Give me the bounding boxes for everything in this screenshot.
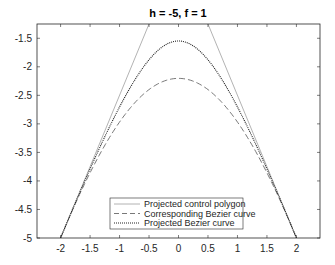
legend-label: Corresponding Bezier curve	[144, 209, 256, 219]
y-tick-label: -5	[23, 233, 32, 244]
x-tick-label: -1.5	[81, 243, 99, 254]
y-tick-label: -2	[23, 61, 32, 72]
legend-label: Projected Bezier curve	[144, 218, 235, 228]
figure: h = -5, f = 1 -2-1.5-1-0.500.511.52 -5-4…	[0, 0, 335, 265]
legend-label: Projected control polygon	[144, 199, 246, 209]
legend: Projected control polygon Corresponding …	[110, 198, 256, 229]
y-tick-label: -3	[23, 118, 32, 129]
chart-title: h = -5, f = 1	[149, 7, 206, 19]
x-tick-label: 1	[235, 243, 241, 254]
x-tick-label: 0	[176, 243, 182, 254]
x-tick-label: 2	[294, 243, 300, 254]
y-tick-label: -4.5	[15, 204, 33, 215]
x-tick-label: 1.5	[260, 243, 274, 254]
x-tick-label: -1	[115, 243, 124, 254]
x-tick-label: -2	[56, 243, 65, 254]
y-tick-label: -1.5	[15, 33, 33, 44]
x-tick-label: -0.5	[140, 243, 158, 254]
y-tick-label: -3.5	[15, 147, 33, 158]
y-tick-label: -2.5	[15, 90, 33, 101]
y-tick-label: -4	[23, 175, 32, 186]
x-tick-label: 0.5	[201, 243, 215, 254]
